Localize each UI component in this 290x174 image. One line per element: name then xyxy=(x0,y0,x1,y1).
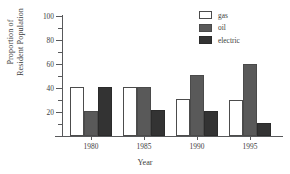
bar-oil-1990 xyxy=(190,75,204,136)
legend-swatch-electric xyxy=(199,36,212,44)
legend: gasoilelectric xyxy=(199,10,240,48)
bar-electric-1980 xyxy=(98,87,112,136)
x-axis-tick-label: 1995 xyxy=(243,142,258,151)
y-axis-tick-label: 80 xyxy=(47,36,54,45)
legend-label-gas: gas xyxy=(218,11,228,20)
y-axis-tick-label: 100 xyxy=(43,12,54,21)
bar-gas-1990 xyxy=(176,99,190,136)
legend-swatch-oil xyxy=(199,24,212,32)
legend-item-gas: gas xyxy=(199,10,240,20)
bar-oil-1985 xyxy=(137,87,151,136)
plot-area: 20406080100 1980198519901995 xyxy=(62,16,277,136)
x-axis-title: Year xyxy=(0,158,290,167)
bar-electric-1990 xyxy=(204,111,218,136)
bar-oil-1980 xyxy=(84,111,98,136)
bars-layer xyxy=(62,16,277,136)
y-axis-title-line-2: Resident Population xyxy=(16,8,26,76)
bar-gas-1985 xyxy=(123,87,137,136)
legend-item-electric: electric xyxy=(199,35,240,45)
legend-label-electric: electric xyxy=(218,36,240,45)
bar-group xyxy=(70,16,112,136)
bar-group xyxy=(123,16,165,136)
legend-swatch-gas xyxy=(199,11,212,19)
y-axis-title: Proportion of Resident Population xyxy=(1,0,31,106)
y-axis-tick-label: 20 xyxy=(47,108,54,117)
x-axis-tick-label: 1980 xyxy=(84,142,99,151)
bar-electric-1995 xyxy=(257,123,271,136)
x-axis-tick xyxy=(91,136,92,140)
x-axis-tick xyxy=(197,136,198,140)
y-axis-title-line-1: Proportion of xyxy=(6,19,16,64)
x-axis-tick-label: 1985 xyxy=(137,142,152,151)
y-axis-tick-label: 60 xyxy=(47,60,54,69)
bar-oil-1995 xyxy=(243,64,257,136)
x-axis-tick xyxy=(250,136,251,140)
y-axis-tick-label: 40 xyxy=(47,84,54,93)
bar-gas-1980 xyxy=(70,87,84,136)
x-axis-line xyxy=(55,136,283,137)
x-axis-tick-label: 1990 xyxy=(190,142,205,151)
x-axis-tick xyxy=(144,136,145,140)
legend-item-oil: oil xyxy=(199,23,240,33)
bar-electric-1985 xyxy=(151,110,165,136)
bar-gas-1995 xyxy=(229,100,243,136)
bar-chart: Proportion of Resident Population 204060… xyxy=(0,0,290,174)
legend-label-oil: oil xyxy=(218,23,226,32)
